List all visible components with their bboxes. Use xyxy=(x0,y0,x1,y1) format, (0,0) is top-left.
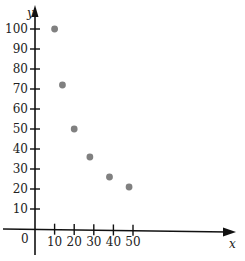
data-point xyxy=(71,126,78,133)
data-points xyxy=(51,26,132,191)
x-tick-label: 30 xyxy=(86,235,101,249)
axes xyxy=(3,5,236,255)
x-tick-label: 50 xyxy=(125,235,140,249)
origin-label: 0 xyxy=(21,232,29,246)
y-tick-label: 50 xyxy=(13,122,28,136)
x-axis-line xyxy=(3,229,228,232)
x-tick-label: 40 xyxy=(106,235,121,249)
y-tick-label: 70 xyxy=(13,82,28,96)
x-ticks: 1020304050 xyxy=(47,224,141,249)
scatter-chart: 102030405060708090100 1020304050 y x 0 xyxy=(0,0,245,261)
y-tick-label: 10 xyxy=(13,202,28,216)
y-tick-label: 40 xyxy=(13,142,28,156)
x-tick-label: 20 xyxy=(67,235,82,249)
y-tick-label: 60 xyxy=(13,102,28,116)
data-point xyxy=(51,26,58,33)
y-tick-label: 100 xyxy=(5,22,28,36)
y-tick-label: 80 xyxy=(13,62,28,76)
data-point xyxy=(106,174,113,181)
data-point xyxy=(59,82,66,89)
data-point xyxy=(126,184,133,191)
x-axis-arrow-icon xyxy=(223,228,236,237)
x-axis-label: x xyxy=(229,237,236,251)
data-point xyxy=(86,154,93,161)
y-axis-label: y xyxy=(26,6,34,20)
x-tick-label: 10 xyxy=(47,235,62,249)
y-tick-label: 20 xyxy=(13,182,28,196)
y-tick-label: 90 xyxy=(13,42,28,56)
y-tick-label: 30 xyxy=(13,162,28,176)
